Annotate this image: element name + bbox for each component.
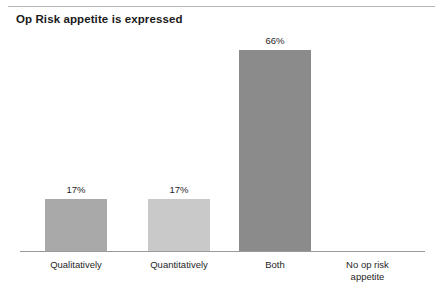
x-axis-line (20, 251, 425, 252)
bar-value-label: 66% (239, 35, 311, 46)
chart-page: Op Risk appetite is expressed 17%17%66% … (0, 0, 443, 297)
bar-value-label: 17% (45, 184, 107, 195)
bar (239, 50, 311, 251)
bar-value-label: 17% (148, 184, 210, 195)
x-axis-category-label: No op risk appetite (330, 259, 405, 282)
x-axis-category-label: Both (239, 259, 311, 271)
bar (148, 199, 210, 251)
x-axis-category-label: Quantitatively (148, 259, 210, 271)
x-axis-category-label: Qualitatively (45, 259, 107, 271)
bar-chart-plot-area: 17%17%66% QualitativelyQuantitativelyBot… (0, 0, 443, 297)
bar (45, 199, 107, 251)
